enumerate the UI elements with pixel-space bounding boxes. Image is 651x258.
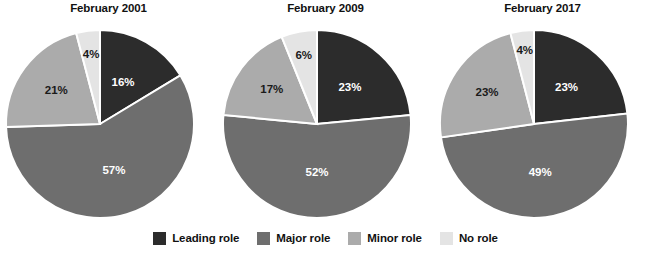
legend-item[interactable]: Minor role: [348, 232, 422, 245]
legend-swatch-icon: [440, 232, 453, 245]
pie-title-0: February 2001: [0, 2, 217, 14]
pie-slice-label: 23%: [555, 81, 578, 93]
pie-slice-label: 49%: [529, 166, 552, 178]
pie-title-1: February 2009: [217, 2, 434, 14]
pie-slice-label: 17%: [260, 83, 283, 95]
pie-slice-label: 16%: [112, 76, 135, 88]
pie-panel-1: February 2009 23%52%17%6%: [217, 0, 434, 222]
legend-item[interactable]: Major role: [257, 232, 330, 245]
pie-slice-label: 52%: [305, 166, 328, 178]
pie-chart-figure: February 2001 16%57%21%4% February 2009 …: [0, 0, 651, 258]
pie-svg-1: 23%52%17%6%: [217, 18, 434, 218]
pie-slice[interactable]: [534, 30, 627, 124]
pie-slice-label: 4%: [516, 44, 533, 56]
pie-svg-2: 23%49%23%4%: [434, 18, 651, 218]
pie-panel-2: February 2017 23%49%23%4%: [434, 0, 651, 222]
pie-panel-0: February 2001 16%57%21%4%: [0, 0, 217, 222]
legend-item[interactable]: Leading role: [153, 232, 239, 245]
pie-slice-label: 4%: [83, 48, 100, 60]
legend-swatch-icon: [257, 232, 270, 245]
pie-slice[interactable]: [317, 30, 411, 124]
pie-slice-label: 57%: [102, 164, 125, 176]
chart-legend: Leading roleMajor roleMinor roleNo role: [0, 226, 651, 250]
pie-slice-label: 23%: [338, 81, 361, 93]
pie-slice-label: 21%: [45, 84, 68, 96]
pie-slice-label: 6%: [295, 49, 312, 61]
pie-slice-label: 23%: [475, 86, 498, 98]
legend-swatch-icon: [348, 232, 361, 245]
legend-item-label: No role: [459, 232, 498, 244]
pie-title-2: February 2017: [434, 2, 651, 14]
legend-item-label: Major role: [276, 232, 330, 244]
legend-item[interactable]: No role: [440, 232, 498, 245]
legend-item-label: Leading role: [172, 232, 239, 244]
pie-svg-0: 16%57%21%4%: [0, 18, 217, 218]
legend-swatch-icon: [153, 232, 166, 245]
legend-item-label: Minor role: [367, 232, 422, 244]
